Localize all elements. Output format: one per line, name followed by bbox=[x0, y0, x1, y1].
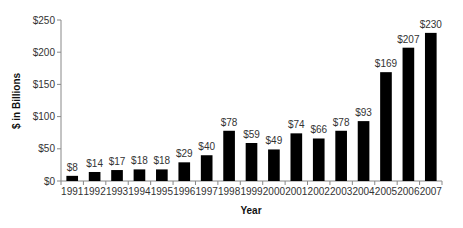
y-tick-label: $150 bbox=[33, 79, 56, 90]
bar-1993 bbox=[111, 170, 123, 181]
x-tick-label: 1996 bbox=[173, 186, 196, 197]
x-tick-label: 1991 bbox=[61, 186, 84, 197]
bar-1999 bbox=[246, 143, 258, 181]
x-tick-label: 1998 bbox=[218, 186, 241, 197]
x-tick-label: 1992 bbox=[83, 186, 106, 197]
bar-value-label: $17 bbox=[109, 156, 126, 167]
bar-value-label: $18 bbox=[131, 155, 148, 166]
x-tick-label: 2004 bbox=[352, 186, 375, 197]
bar-value-label: $230 bbox=[420, 19, 443, 30]
bar-1997 bbox=[201, 155, 213, 181]
x-tick-label: 2007 bbox=[420, 186, 443, 197]
x-axis-title: Year bbox=[240, 205, 261, 216]
bar-value-label: $93 bbox=[355, 107, 372, 118]
y-tick-label: $250 bbox=[33, 15, 56, 26]
x-tick-label: 2000 bbox=[263, 186, 286, 197]
bar-value-label: $78 bbox=[333, 117, 350, 128]
bar-2001 bbox=[290, 133, 302, 181]
bar-2002 bbox=[313, 138, 325, 181]
y-tick-label: $50 bbox=[38, 143, 55, 154]
bar-1994 bbox=[134, 169, 146, 181]
x-tick-label: 1994 bbox=[128, 186, 151, 197]
y-axis: $0$50$100$150$200$250 bbox=[33, 15, 61, 187]
x-tick-label: 2005 bbox=[375, 186, 398, 197]
x-tick-label: 1993 bbox=[106, 186, 129, 197]
bar-value-label: $78 bbox=[221, 117, 238, 128]
bar-value-label: $66 bbox=[310, 124, 327, 135]
bar-value-label: $8 bbox=[67, 162, 79, 173]
x-tick-label: 2002 bbox=[308, 186, 331, 197]
bar-value-label: $169 bbox=[375, 58, 398, 69]
bar-2003 bbox=[335, 131, 347, 181]
bar-value-label: $29 bbox=[176, 148, 193, 159]
x-tick-label: 1999 bbox=[240, 186, 263, 197]
bar-chart: $0$50$100$150$200$250 199119921993199419… bbox=[0, 0, 463, 228]
bar-value-label: $207 bbox=[397, 34, 420, 45]
y-axis-title: $ in Billions bbox=[11, 73, 22, 130]
bar-value-label: $40 bbox=[198, 141, 215, 152]
bar-2005 bbox=[380, 72, 392, 181]
bar-1991 bbox=[66, 176, 78, 181]
y-tick-label: $0 bbox=[44, 176, 56, 187]
x-tick-label: 1995 bbox=[151, 186, 174, 197]
x-tick-label: 2003 bbox=[330, 186, 353, 197]
bar-1998 bbox=[223, 131, 235, 181]
x-axis: 1991199219931994199519961997199819992000… bbox=[61, 181, 442, 197]
bar-value-label: $59 bbox=[243, 129, 260, 140]
bar-value-label: $49 bbox=[266, 135, 283, 146]
bar-1995 bbox=[156, 169, 168, 181]
bar-2004 bbox=[358, 121, 370, 181]
x-tick-label: 2006 bbox=[397, 186, 420, 197]
bar-value-label: $74 bbox=[288, 119, 305, 130]
bars: $8$14$17$18$18$29$40$78$59$49$74$66$78$9… bbox=[66, 19, 442, 181]
y-tick-label: $100 bbox=[33, 111, 56, 122]
bar-1996 bbox=[178, 162, 190, 181]
bar-1992 bbox=[89, 172, 101, 181]
bar-2000 bbox=[268, 149, 280, 181]
bar-2007 bbox=[425, 33, 437, 181]
y-tick-label: $200 bbox=[33, 47, 56, 58]
x-tick-label: 1997 bbox=[196, 186, 219, 197]
bar-value-label: $14 bbox=[86, 158, 103, 169]
bar-2006 bbox=[403, 48, 415, 181]
x-tick-label: 2001 bbox=[285, 186, 308, 197]
bar-value-label: $18 bbox=[154, 155, 171, 166]
